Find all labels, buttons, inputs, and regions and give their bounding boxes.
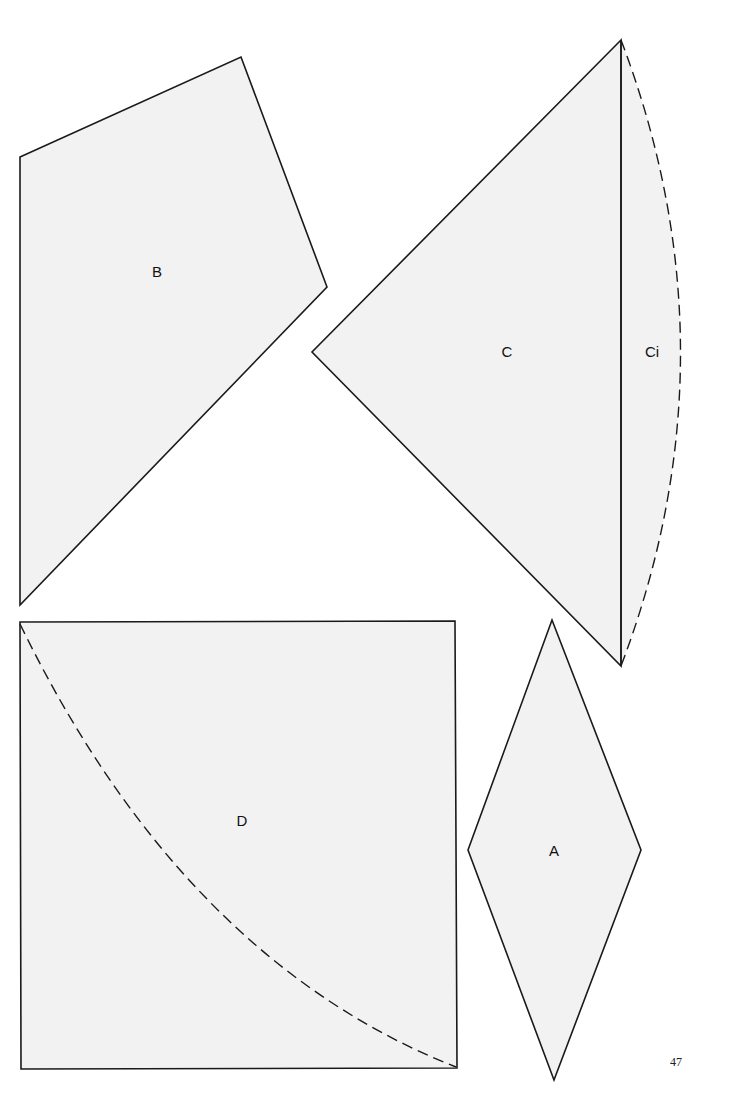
piece-a-label: A bbox=[549, 842, 559, 859]
piece-d-label: D bbox=[237, 812, 248, 829]
piece-c-label: C bbox=[502, 343, 513, 360]
piece-d-shape bbox=[20, 621, 457, 1069]
piece-b: B bbox=[20, 57, 327, 605]
piece-a: A bbox=[468, 620, 641, 1080]
template-sheet: B C Ci D A bbox=[0, 0, 731, 1120]
piece-d: D bbox=[20, 621, 457, 1069]
piece-c-shape bbox=[312, 40, 621, 666]
piece-b-shape bbox=[20, 57, 327, 605]
piece-ci-label: Ci bbox=[645, 343, 659, 360]
page-number: 47 bbox=[662, 1055, 690, 1070]
piece-c-group: C Ci bbox=[312, 40, 681, 666]
piece-b-label: B bbox=[152, 263, 162, 280]
